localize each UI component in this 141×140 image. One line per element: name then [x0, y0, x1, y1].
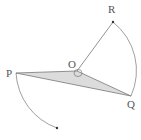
label-q: Q [127, 98, 135, 110]
point-p-rotated [56, 127, 58, 129]
label-r: R [108, 3, 116, 15]
point-r [112, 21, 114, 23]
segment-or [77, 22, 113, 71]
arc-r-to-q [113, 22, 136, 96]
triangle-poq [16, 71, 131, 96]
arc-p-to-p-rotated [16, 73, 57, 128]
label-p: P [6, 67, 12, 79]
label-o: O [68, 58, 76, 70]
geometry-diagram: R O P Q [0, 0, 141, 140]
